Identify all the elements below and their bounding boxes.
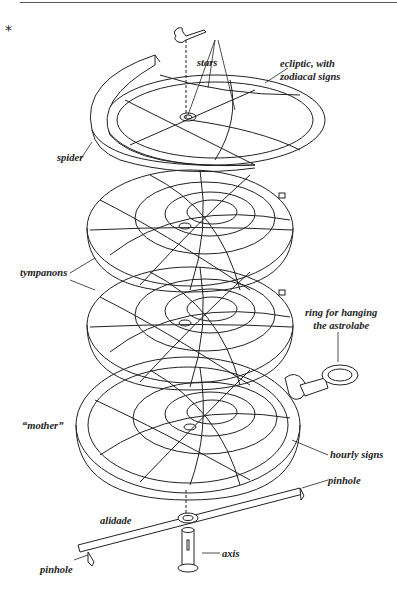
label-spider: spider	[57, 151, 83, 164]
axis-pin	[178, 528, 198, 573]
label-ring: ring for hanging the astrolabe	[305, 306, 377, 332]
mother-plate	[76, 357, 300, 500]
astrolabe-diagram	[0, 0, 397, 590]
label-stars: stars	[197, 56, 217, 69]
label-tympanons: tympanons	[20, 266, 67, 279]
label-ecliptic: ecliptic, with zodiacal signs	[280, 57, 340, 83]
hanging-ring	[285, 365, 358, 399]
rete-pointer-icon	[174, 28, 206, 43]
label-ring-line2: the astrolabe	[305, 319, 377, 332]
label-axis: axis	[222, 547, 240, 560]
label-ring-line1: ring for hanging	[305, 306, 377, 319]
label-alidade: alidade	[100, 514, 132, 527]
label-pinhole-left: pinhole	[40, 563, 73, 576]
label-mother: “mother”	[22, 419, 63, 432]
label-ecliptic-line2: zodiacal signs	[280, 70, 340, 83]
label-ecliptic-line1: ecliptic, with	[280, 57, 340, 70]
label-hourly-signs: hourly signs	[330, 448, 383, 461]
label-pinhole-right: pinhole	[328, 474, 361, 487]
tympanon-upper	[87, 170, 293, 292]
